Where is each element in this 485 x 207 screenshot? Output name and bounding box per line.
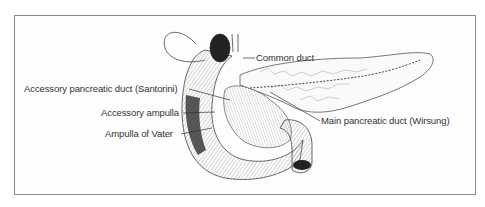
duodenum-opening-top [210, 34, 230, 62]
label-ampulla-of-vater: Ampulla of Vater [105, 128, 173, 139]
common-duct-shape [232, 34, 238, 52]
label-accessory-pancreatic-duct: Accessory pancreatic duct (Santorini) [24, 83, 178, 94]
label-accessory-ampulla: Accessory ampulla [101, 107, 179, 118]
duodenum-opening-bottom [293, 160, 311, 170]
pancreas-illustration [0, 0, 485, 207]
label-main-pancreatic-duct: Main pancreatic duct (Wirsung) [321, 115, 449, 126]
label-common-duct: Common duct [256, 52, 314, 63]
